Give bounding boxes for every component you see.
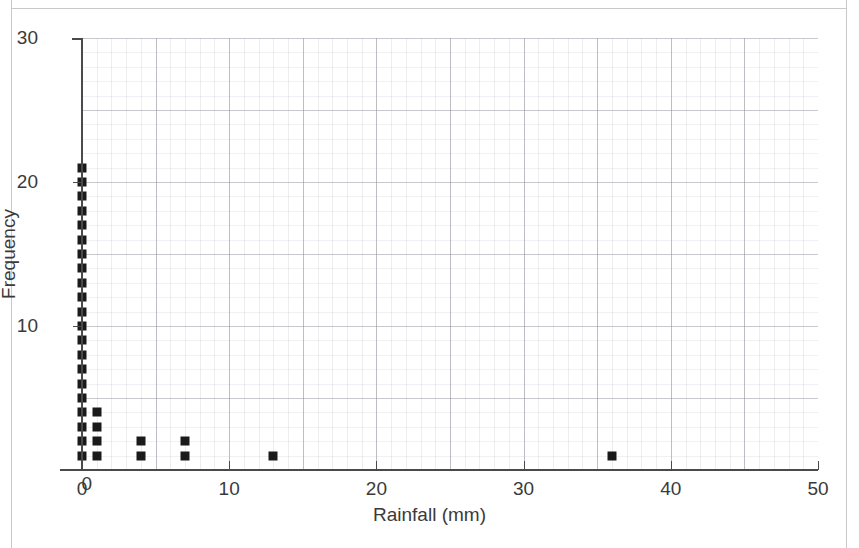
grid-major — [82, 38, 818, 470]
x-tick-label: 40 — [660, 478, 681, 500]
data-point-marker — [269, 451, 278, 460]
y-tick — [73, 326, 82, 327]
x-tick — [376, 461, 377, 470]
data-point-marker — [607, 451, 616, 460]
x-axis-title: Rainfall (mm) — [0, 504, 859, 526]
data-point-marker — [136, 437, 145, 446]
chart-page: 01020304050 0102030 Rainfall (mm) Freque… — [0, 0, 859, 548]
x-tick-label: 20 — [366, 478, 387, 500]
y-axis-title: Frequency — [0, 209, 20, 299]
data-point-marker — [92, 451, 101, 460]
data-point-marker — [92, 437, 101, 446]
x-tick-label: 50 — [807, 478, 828, 500]
x-axis-line — [60, 469, 818, 471]
y-tick — [73, 182, 82, 183]
data-point-marker — [92, 422, 101, 431]
y-tick-label: 30 — [17, 27, 38, 49]
x-tick — [82, 461, 83, 470]
x-tick — [524, 461, 525, 470]
x-tick-label: 30 — [513, 478, 534, 500]
data-point-marker — [181, 437, 190, 446]
y-tick-label: 0 — [81, 473, 92, 495]
data-point-marker — [92, 408, 101, 417]
y-tick — [73, 38, 82, 39]
x-tick — [818, 461, 819, 470]
data-point-marker — [181, 451, 190, 460]
x-tick — [671, 461, 672, 470]
y-axis-line — [81, 38, 83, 471]
plot-area — [82, 38, 818, 470]
data-point-marker — [136, 451, 145, 460]
x-tick — [229, 461, 230, 470]
scatter-plot: 01020304050 0102030 Rainfall (mm) Freque… — [0, 0, 859, 548]
y-tick-label: 20 — [17, 171, 38, 193]
x-tick-label: 10 — [219, 478, 240, 500]
y-tick-label: 10 — [17, 315, 38, 337]
